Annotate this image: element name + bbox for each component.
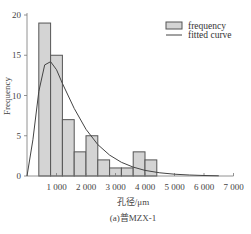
x-axis-label: 孔径/μm <box>117 196 149 207</box>
histogram-bar <box>133 152 145 176</box>
x-tick-label: 7 000 <box>223 182 244 192</box>
histogram-bar <box>62 120 74 176</box>
y-tick-label: 10 <box>12 91 22 101</box>
histogram-bar <box>145 160 157 176</box>
x-tick-label: 5 000 <box>164 182 185 192</box>
y-axis-label: Frequency <box>2 77 12 115</box>
legend-swatch-frequency <box>166 22 182 29</box>
x-tick-label: 6 000 <box>194 182 215 192</box>
x-tick-label: 1 000 <box>46 182 67 192</box>
histogram-bar <box>121 168 133 176</box>
y-tick-label: 15 <box>12 50 22 60</box>
histogram-chart: 051015201 0002 0003 0004 0005 0006 0007 … <box>0 0 251 234</box>
histogram-bar <box>39 23 51 176</box>
x-tick-label: 3 000 <box>105 182 126 192</box>
y-tick-label: 20 <box>12 10 22 20</box>
y-tick-label: 5 <box>17 131 22 141</box>
histogram-bar <box>51 55 63 176</box>
histogram-bar <box>74 152 86 176</box>
x-tick-label: 4 000 <box>135 182 156 192</box>
x-tick-label: 2 000 <box>76 182 97 192</box>
legend-label-fitted-curve: fitted curve <box>188 30 232 40</box>
y-tick-label: 0 <box>17 171 22 181</box>
histogram-bar <box>98 160 110 176</box>
chart-caption: (a)普MZX-1 <box>110 212 157 223</box>
